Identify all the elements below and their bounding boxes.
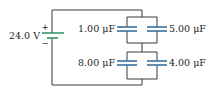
capacitor-8uF [117, 61, 137, 65]
battery-minus-sign: − [42, 39, 49, 48]
capacitor-5uF-label: 5.00 μF [169, 23, 206, 34]
capacitor-4uF [147, 61, 167, 65]
capacitor-8uF-label: 8.00 μF [78, 57, 115, 68]
upper-parallel-group [117, 17, 167, 43]
battery-voltage-label: 24.0 V [9, 30, 40, 41]
capacitor-1uF-label: 1.00 μF [78, 23, 115, 34]
circuit-diagram: + − 24.0 V 1.00 μF 5.00 μF 8.00 μF 4.00 … [0, 0, 211, 93]
capacitor-5uF [147, 27, 167, 31]
battery: + − 24.0 V [9, 23, 64, 48]
battery-plus-sign: + [42, 23, 49, 32]
circuit-wires [52, 10, 142, 85]
lower-parallel-group [117, 52, 167, 79]
capacitor-1uF [117, 27, 137, 31]
capacitor-4uF-label: 4.00 μF [169, 57, 206, 68]
